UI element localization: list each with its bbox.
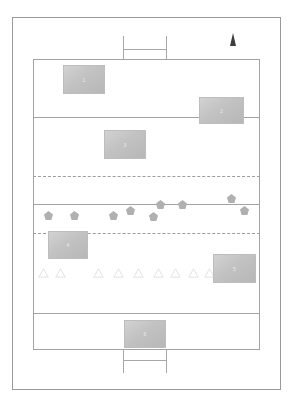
block-3[interactable]: 3 <box>104 130 146 159</box>
goal-post-right <box>166 36 167 59</box>
block-label: 1 <box>64 77 104 83</box>
triangle-marker[interactable] <box>153 268 164 278</box>
block-label: 5 <box>214 266 255 272</box>
block-4[interactable]: 4 <box>48 231 88 259</box>
goal-bottom <box>123 350 167 373</box>
triangle-marker[interactable] <box>170 268 181 278</box>
centre-line <box>33 204 260 205</box>
block-6[interactable]: 6 <box>124 320 166 348</box>
triangle-marker[interactable] <box>188 268 199 278</box>
quarter-line-bottom <box>33 313 260 314</box>
block-label: 3 <box>105 142 145 148</box>
block-1[interactable]: 1 <box>63 65 105 94</box>
triangle-marker[interactable] <box>93 268 104 278</box>
goal-top <box>123 36 167 59</box>
diagram-canvas: 123456 <box>0 0 293 407</box>
triangle-marker[interactable] <box>38 268 49 278</box>
block-label: 6 <box>125 331 165 337</box>
triangle-marker[interactable] <box>55 268 66 278</box>
triangle-marker[interactable] <box>133 268 144 278</box>
block-2[interactable]: 2 <box>199 97 244 124</box>
goal-post-left <box>123 350 124 373</box>
goal-crossbar <box>123 49 167 50</box>
dashed-line-upper <box>33 176 260 177</box>
north-arrow-icon <box>230 33 236 46</box>
triangle-marker[interactable] <box>113 268 124 278</box>
goal-post-left <box>123 36 124 59</box>
block-5[interactable]: 5 <box>213 254 256 283</box>
goal-crossbar <box>123 360 167 361</box>
block-label: 2 <box>200 108 243 114</box>
goal-post-right <box>166 350 167 373</box>
block-label: 4 <box>49 242 87 248</box>
